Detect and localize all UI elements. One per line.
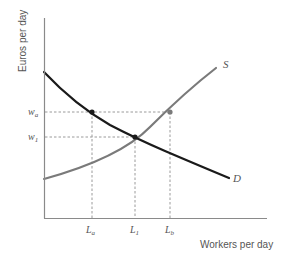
- chart-canvas: S D wa w1 La L1 Lb Euros per day Workers…: [0, 0, 283, 260]
- lb-tick-label: Lb: [164, 224, 175, 237]
- wa-tick-label: wa: [28, 106, 39, 119]
- l1-tick-label: L1: [129, 224, 139, 237]
- supply-curve-label: S: [223, 58, 229, 70]
- y-axis-title: Euros per day: [17, 10, 28, 72]
- labour-market-chart: S D wa w1 La L1 Lb Euros per day Workers…: [0, 0, 283, 260]
- demand-curve: [44, 72, 229, 178]
- x-axis-title: Workers per day: [200, 239, 273, 250]
- demand-point-wa: [89, 109, 94, 114]
- la-tick-label: La: [85, 224, 96, 237]
- supply-point-wa: [167, 109, 172, 114]
- demand-curve-label: D: [232, 172, 241, 184]
- equilibrium-point: [132, 134, 137, 139]
- w1-tick-label: w1: [28, 131, 38, 144]
